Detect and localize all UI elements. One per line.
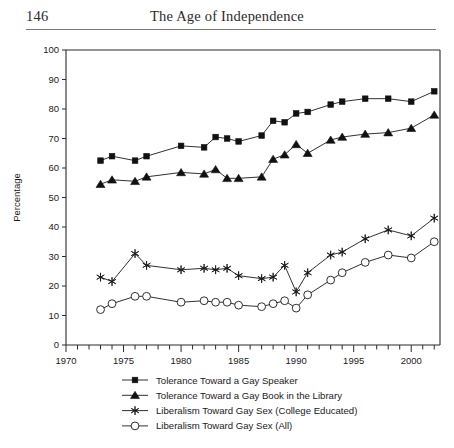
marker-filled-triangle [211, 165, 220, 172]
running-head: 146 The Age of Independence [0, 0, 454, 34]
marker-star [327, 251, 334, 260]
marker-open-circle [212, 298, 220, 306]
marker-filled-square [178, 143, 184, 149]
marker-open-circle [292, 304, 300, 312]
marker-open-circle [131, 292, 139, 300]
marker-open-circle [258, 303, 266, 311]
line-chart: 0102030405060708090100Percentage 1970197… [0, 34, 454, 448]
legend-item-label: Tolerance Toward a Gay Speaker [156, 375, 298, 386]
marker-open-circle [108, 300, 116, 308]
figure-chart: 0102030405060708090100Percentage 1970197… [0, 34, 454, 448]
marker-star [304, 268, 311, 277]
marker-filled-triangle [96, 180, 105, 187]
marker-open-circle [143, 292, 151, 300]
x-axis-tick-label: 1975 [113, 355, 134, 366]
marker-filled-square [201, 145, 207, 151]
marker-open-circle [281, 297, 289, 305]
marker-filled-square [132, 377, 138, 383]
marker-filled-square [224, 136, 230, 142]
marker-open-circle [327, 276, 335, 284]
x-axis-tick-label: 1990 [286, 355, 307, 366]
x-axis-tick-label: 1995 [343, 355, 364, 366]
y-axis-tick-label: 10 [48, 310, 59, 321]
marker-open-circle [177, 298, 185, 306]
marker-star [338, 248, 345, 257]
y-axis-tick-label: 60 [48, 162, 59, 173]
marker-open-circle [131, 422, 139, 430]
marker-open-circle [361, 259, 369, 267]
marker-filled-square [431, 89, 437, 95]
x-axis: 1970197519801985199019952000 [55, 50, 440, 366]
legend-item-label: Liberalism Toward Gay Sex (All) [156, 420, 292, 431]
series-1 [96, 111, 439, 188]
marker-star [431, 214, 438, 223]
marker-filled-triangle [108, 176, 117, 183]
x-axis-tick-label: 1970 [55, 355, 76, 366]
marker-filled-triangle [430, 111, 439, 118]
marker-filled-square [132, 158, 138, 164]
y-axis-tick-label: 90 [48, 74, 59, 85]
marker-filled-square [282, 119, 288, 125]
marker-open-circle [407, 254, 415, 262]
y-axis-tick-label: 100 [43, 44, 59, 55]
marker-filled-triangle [177, 168, 186, 175]
marker-open-circle [338, 269, 346, 277]
marker-filled-square [328, 102, 334, 108]
legend-item: Tolerance Toward a Gay Book in the Libra… [122, 390, 342, 401]
marker-star [361, 235, 368, 244]
y-axis-tick-label: 20 [48, 280, 59, 291]
x-axis-tick-label: 1980 [171, 355, 192, 366]
marker-open-circle [304, 291, 312, 299]
x-axis-tick-label: 2000 [401, 355, 422, 366]
marker-filled-square [305, 109, 311, 115]
marker-filled-square [109, 153, 115, 159]
y-axis-tick-label: 40 [48, 221, 59, 232]
marker-filled-square [385, 96, 391, 102]
marker-star [408, 232, 415, 241]
y-axis-tick-label: 0 [54, 339, 59, 350]
marker-filled-square [293, 111, 299, 117]
marker-filled-square [236, 139, 242, 145]
series-line [101, 115, 435, 184]
marker-open-circle [430, 238, 438, 246]
marker-filled-square [144, 153, 150, 159]
x-axis-tick-label: 1985 [228, 355, 249, 366]
y-axis: 0102030405060708090100Percentage [11, 44, 66, 350]
marker-open-circle [200, 297, 208, 305]
marker-open-circle [223, 298, 231, 306]
marker-filled-square [270, 118, 276, 124]
y-axis-tick-label: 80 [48, 103, 59, 114]
y-axis-tick-label: 30 [48, 251, 59, 262]
header-divider [26, 29, 436, 30]
y-axis-title: Percentage [11, 173, 22, 222]
legend-item: Tolerance Toward a Gay Speaker [122, 375, 298, 386]
y-axis-tick-label: 70 [48, 133, 59, 144]
y-axis-tick-label: 50 [48, 192, 59, 203]
book-page: 146 The Age of Independence 010203040506… [0, 0, 454, 448]
marker-filled-triangle [292, 140, 301, 147]
marker-filled-triangle [257, 173, 266, 180]
series-line [101, 242, 435, 310]
marker-filled-square [259, 133, 265, 139]
marker-filled-square [339, 99, 345, 105]
marker-filled-square [213, 134, 219, 140]
series-line [101, 91, 435, 160]
marker-filled-square [362, 96, 368, 102]
series-0 [98, 89, 437, 164]
marker-star [292, 288, 299, 297]
legend-item: Liberalism Toward Gay Sex (College Educa… [122, 405, 357, 416]
marker-filled-square [408, 99, 414, 105]
marker-open-circle [97, 306, 105, 314]
plot-area [96, 89, 439, 314]
legend-item-label: Liberalism Toward Gay Sex (College Educa… [156, 405, 357, 416]
marker-star [384, 226, 391, 235]
marker-filled-square [98, 158, 104, 164]
series-3 [97, 238, 439, 314]
marker-open-circle [235, 301, 243, 309]
marker-star [97, 273, 104, 282]
marker-filled-triangle [407, 124, 416, 131]
marker-filled-triangle [269, 155, 278, 162]
legend-item: Liberalism Toward Gay Sex (All) [122, 420, 292, 431]
marker-open-circle [384, 251, 392, 259]
running-title: The Age of Independence [0, 8, 454, 25]
